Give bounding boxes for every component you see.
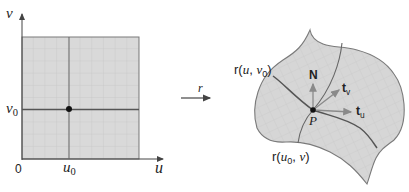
u0-label-var: u: [63, 159, 71, 175]
normal-label: N: [309, 69, 318, 81]
curve-u-label: r(u, v0): [234, 63, 272, 79]
u-axis-label: u: [155, 160, 163, 176]
tangent-v-sub: v: [346, 87, 350, 97]
v0-label: v0: [6, 101, 18, 119]
domain-square: [22, 37, 139, 159]
curve-v-label: r(u0, v): [272, 150, 310, 166]
tangent-u-label: tu: [356, 105, 365, 119]
curve-v-suffix: ): [305, 149, 309, 164]
tangent-v-label: tv: [342, 82, 350, 96]
curve-v-prefix: r(: [272, 149, 281, 164]
curve-u-suffix: ): [267, 62, 271, 77]
curve-u-prefix: r(: [234, 62, 243, 77]
domain-point: [66, 106, 72, 112]
tangent-u-sub: u: [360, 110, 365, 120]
point-label: P: [309, 114, 317, 127]
v-axis-label: v: [6, 6, 13, 21]
v0-label-sub: 0: [13, 107, 18, 118]
mapping-label: r: [198, 82, 203, 94]
u0-label: u0: [63, 160, 76, 178]
origin-label: 0: [15, 163, 22, 175]
u0-label-sub: 0: [71, 166, 76, 177]
v0-label-var: v: [6, 100, 13, 116]
surface-point: [310, 107, 316, 113]
parameter-domain: [22, 14, 163, 160]
